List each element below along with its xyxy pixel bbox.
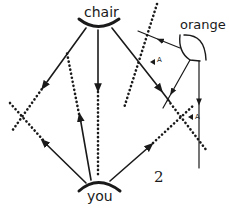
diagram-svg: [0, 0, 229, 215]
marker-a-lower-label: A: [195, 113, 200, 121]
you-label: you: [87, 188, 113, 204]
orange-label: orange: [180, 17, 226, 32]
edge-you-upright: [110, 146, 150, 181]
marker-a-lower-arrow: [188, 114, 193, 120]
figure-number: 2: [154, 168, 164, 186]
edge-you-up-dotted: [67, 53, 79, 114]
marker-a-upper-arrow: [150, 59, 155, 65]
chair-arc: [79, 19, 119, 27]
edge-chair-downleft: [44, 28, 86, 86]
edge-orange-downleft: [172, 60, 190, 92]
edge-you-up: [80, 117, 91, 180]
marker-a-upper-label: A: [157, 56, 162, 64]
diagram-canvas: chair you orange A A 2: [0, 0, 229, 215]
right-x-stroke: [168, 100, 207, 151]
orange-arc: [184, 35, 206, 60]
chair-label: chair: [84, 4, 119, 20]
edge-orange-upleft: [160, 40, 180, 48]
edge-you-upright-dotted: [153, 104, 195, 143]
dotted-line-upper: [124, 4, 157, 108]
edge-you-upleft: [44, 142, 86, 183]
